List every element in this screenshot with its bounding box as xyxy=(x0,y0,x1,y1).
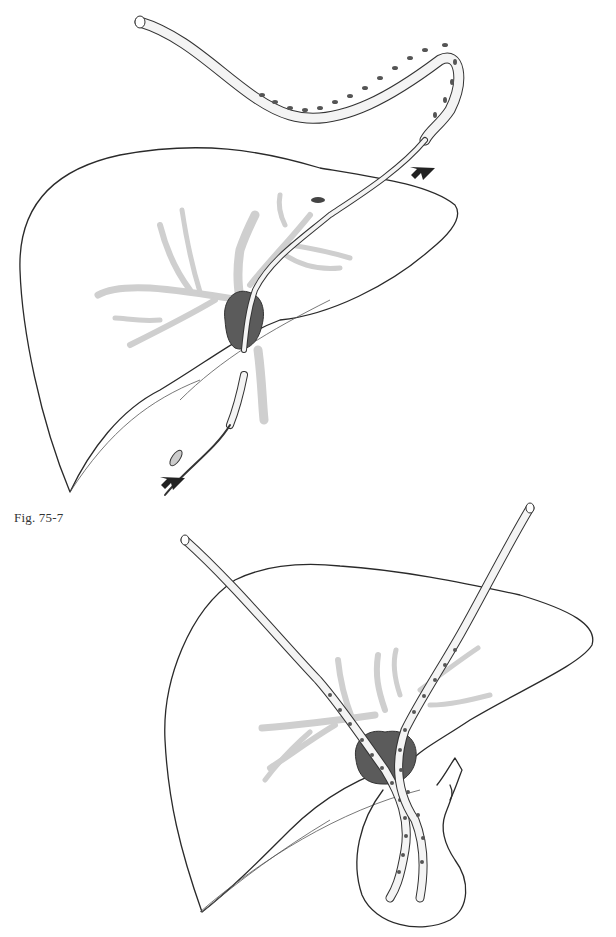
liver-stent-drawing-bottom xyxy=(0,500,616,937)
figure-top-illustration xyxy=(0,0,616,500)
arrow-icon xyxy=(410,167,435,180)
jejunal-limb xyxy=(357,758,466,927)
arrow-icon xyxy=(160,477,185,490)
liver-stent-drawing-top xyxy=(0,0,616,500)
perforated-stent xyxy=(135,16,459,495)
figure-bottom-illustration xyxy=(0,500,616,937)
